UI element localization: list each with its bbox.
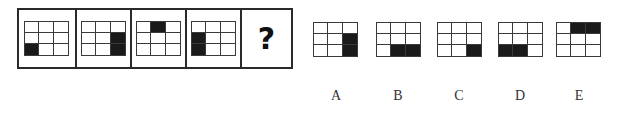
option-b-label[interactable]: B <box>388 88 408 104</box>
grid <box>81 21 126 56</box>
empty-cell <box>25 22 39 33</box>
empty-cell <box>513 34 527 45</box>
filled-cell <box>586 23 600 34</box>
sequence-frame-4 <box>187 10 242 67</box>
sequence-strip: ? <box>17 8 293 69</box>
empty-cell <box>513 23 527 34</box>
sequence-frame-unknown: ? <box>242 10 291 67</box>
empty-cell <box>314 45 328 56</box>
filled-cell <box>151 22 165 33</box>
filled-cell <box>25 44 39 55</box>
filled-cell <box>467 45 481 56</box>
empty-cell <box>82 33 96 44</box>
empty-cell <box>377 34 391 45</box>
empty-cell <box>467 34 481 45</box>
option-a-grid[interactable] <box>313 22 358 57</box>
option-d-grid[interactable] <box>498 22 543 57</box>
empty-cell <box>39 22 53 33</box>
filled-cell <box>513 45 527 56</box>
filled-cell <box>499 45 513 56</box>
empty-cell <box>166 44 180 55</box>
empty-cell <box>39 44 53 55</box>
empty-cell <box>452 23 466 34</box>
filled-cell <box>192 33 206 44</box>
empty-cell <box>137 44 151 55</box>
empty-cell <box>221 22 235 33</box>
empty-cell <box>137 33 151 44</box>
empty-cell <box>377 23 391 34</box>
empty-cell <box>467 23 481 34</box>
grid <box>24 21 69 56</box>
option-d-label[interactable]: D <box>510 88 530 104</box>
sequence-frame-1 <box>19 10 77 67</box>
empty-cell <box>528 45 542 56</box>
sequence-frame-3 <box>132 10 187 67</box>
filled-cell <box>406 45 420 56</box>
empty-cell <box>391 23 405 34</box>
filled-cell <box>343 34 357 45</box>
option-e-grid[interactable] <box>556 22 601 57</box>
empty-cell <box>96 33 110 44</box>
grid <box>136 21 181 56</box>
empty-cell <box>221 33 235 44</box>
empty-cell <box>111 22 125 33</box>
empty-cell <box>96 44 110 55</box>
empty-cell <box>206 44 220 55</box>
empty-cell <box>166 33 180 44</box>
empty-cell <box>528 23 542 34</box>
empty-cell <box>206 22 220 33</box>
question-mark: ? <box>242 20 291 55</box>
empty-cell <box>192 22 206 33</box>
empty-cell <box>377 45 391 56</box>
filled-cell <box>111 33 125 44</box>
empty-cell <box>328 45 342 56</box>
filled-cell <box>571 23 585 34</box>
empty-cell <box>151 44 165 55</box>
empty-cell <box>25 33 39 44</box>
empty-cell <box>571 34 585 45</box>
empty-cell <box>166 22 180 33</box>
option-a-label[interactable]: A <box>326 88 346 104</box>
empty-cell <box>438 23 452 34</box>
option-e-label[interactable]: E <box>569 88 589 104</box>
empty-cell <box>438 45 452 56</box>
empty-cell <box>314 34 328 45</box>
empty-cell <box>82 22 96 33</box>
empty-cell <box>54 22 68 33</box>
empty-cell <box>571 45 585 56</box>
filled-cell <box>111 44 125 55</box>
empty-cell <box>206 33 220 44</box>
empty-cell <box>82 44 96 55</box>
empty-cell <box>54 44 68 55</box>
empty-cell <box>499 34 513 45</box>
empty-cell <box>452 34 466 45</box>
empty-cell <box>406 23 420 34</box>
empty-cell <box>391 34 405 45</box>
empty-cell <box>557 34 571 45</box>
option-c-label[interactable]: C <box>449 88 469 104</box>
empty-cell <box>586 45 600 56</box>
empty-cell <box>343 23 357 34</box>
empty-cell <box>499 23 513 34</box>
option-b-grid[interactable] <box>376 22 421 57</box>
filled-cell <box>391 45 405 56</box>
empty-cell <box>137 22 151 33</box>
empty-cell <box>452 45 466 56</box>
empty-cell <box>528 34 542 45</box>
empty-cell <box>221 44 235 55</box>
empty-cell <box>557 45 571 56</box>
empty-cell <box>314 23 328 34</box>
empty-cell <box>54 33 68 44</box>
option-c-grid[interactable] <box>437 22 482 57</box>
empty-cell <box>96 22 110 33</box>
empty-cell <box>39 33 53 44</box>
grid <box>191 21 236 56</box>
filled-cell <box>343 45 357 56</box>
empty-cell <box>328 34 342 45</box>
empty-cell <box>557 23 571 34</box>
sequence-frame-2 <box>77 10 132 67</box>
empty-cell <box>151 33 165 44</box>
filled-cell <box>192 44 206 55</box>
empty-cell <box>586 34 600 45</box>
empty-cell <box>328 23 342 34</box>
